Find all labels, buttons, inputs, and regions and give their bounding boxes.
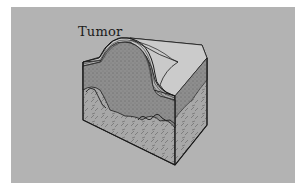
skin-block-illustration — [0, 0, 307, 190]
